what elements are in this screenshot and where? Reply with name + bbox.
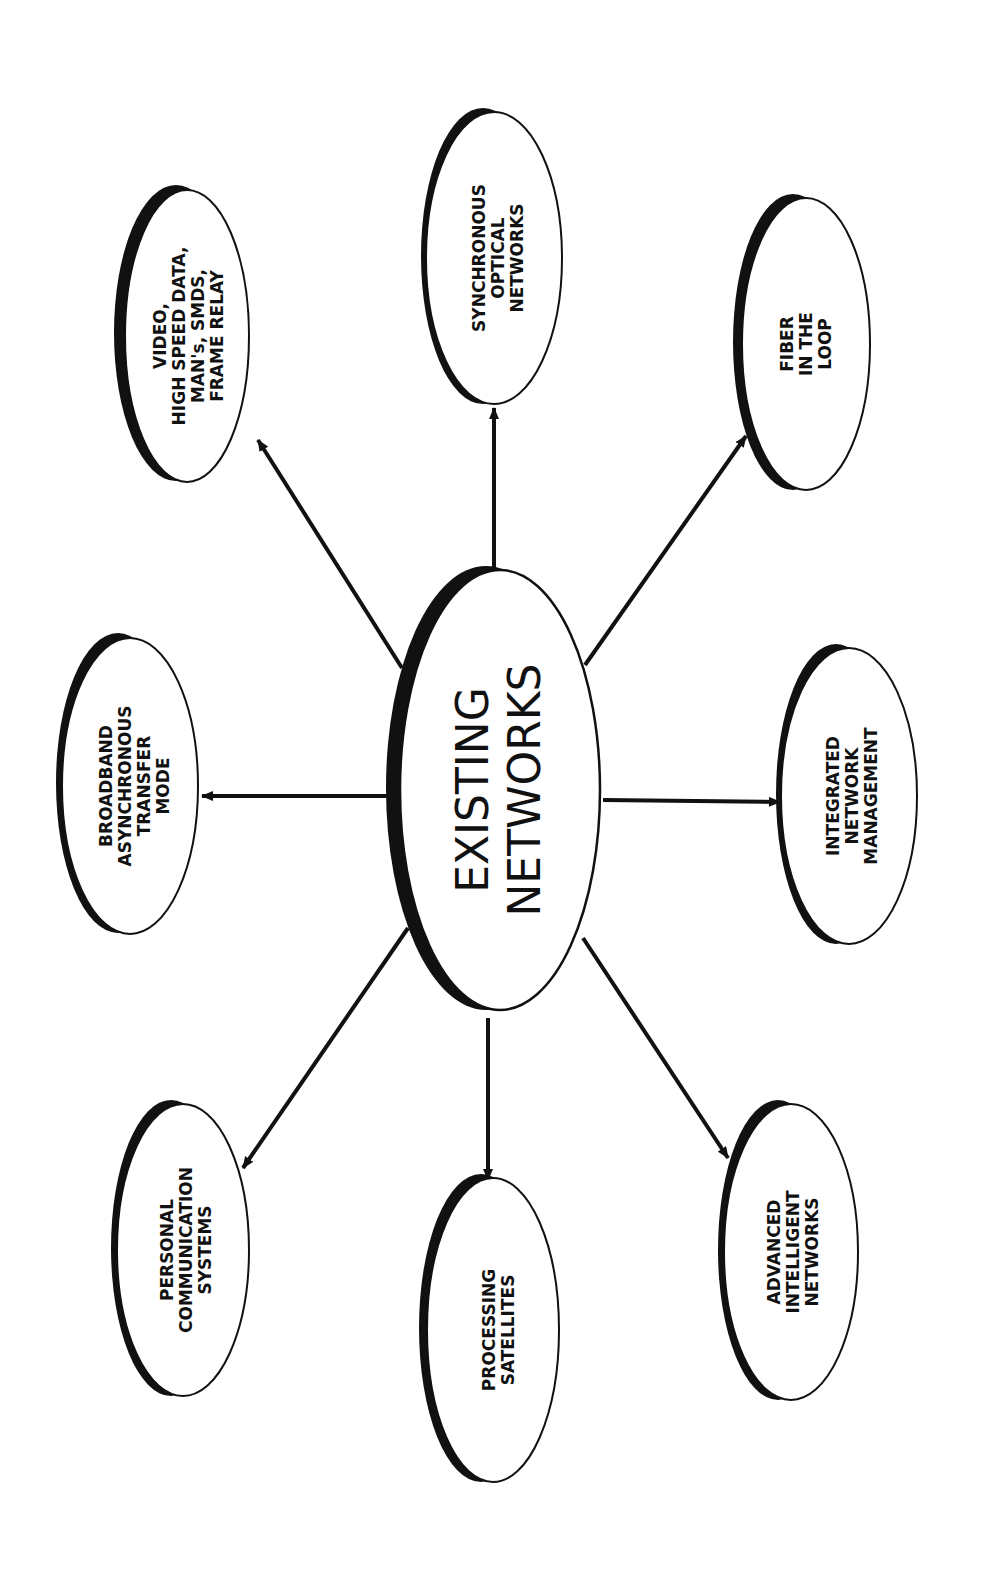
node-label-line-2: COMMUNICATION	[176, 1167, 196, 1333]
node-label-line-3: TRANSFER	[134, 736, 154, 837]
node-label-line-1: INTEGRATED	[823, 736, 843, 856]
network-diagram: EXISTING NETWORKS VIDEO, HIGH SPEED DATA…	[0, 0, 982, 1581]
center-label-line-1: EXISTING	[447, 687, 498, 893]
node-label-line-4: FRAME RELAY	[207, 269, 227, 401]
node-broadband-atm: BROADBAND ASYNCHRONOUS TRANSFER MODE	[56, 633, 198, 934]
node-label-line-2: ASYNCHRONOUS	[115, 706, 135, 867]
node-video-high-speed-data: VIDEO, HIGH SPEED DATA, MAN's, SMDS, FRA…	[114, 185, 249, 482]
node-integrated-network-management: INTEGRATED NETWORK MANAGEMENT	[776, 644, 917, 944]
node-label-line-1: PERSONAL	[157, 1199, 177, 1301]
node-processing-satellites: PROCESSING SATELLITES	[419, 1174, 559, 1482]
node-synchronous-optical-networks: SYNCHRONOUS OPTICAL NETWORKS	[421, 108, 562, 404]
node-label-line-2: HIGH SPEED DATA,	[169, 247, 189, 426]
node-label-line-1: BROADBAND	[96, 725, 116, 847]
edge-to-advanced-intelligent-networks	[583, 938, 728, 1158]
node-label-line-1: PROCESSING	[479, 1269, 499, 1391]
node-label-line-1: FIBER	[777, 316, 797, 372]
node-label-line-3: NETWORKS	[802, 1197, 822, 1306]
node-label-line-2: OPTICAL	[488, 217, 508, 298]
node-fiber-in-the-loop: FIBER IN THE LOOP	[733, 194, 870, 490]
center-label-line-2: NETWORKS	[499, 663, 550, 916]
node-advanced-intelligent-networks: ADVANCED INTELLIGENT NETWORKS	[718, 1100, 858, 1400]
node-label-line-1: ADVANCED	[764, 1200, 784, 1305]
node-label-line-1: SYNCHRONOUS	[469, 184, 489, 332]
node-label-line-2: SATELLITES	[498, 1275, 518, 1386]
node-label-line-3: LOOP	[815, 318, 835, 370]
node-label-line-3: SYSTEMS	[195, 1205, 215, 1294]
node-label-line-3: MAN's, SMDS,	[188, 269, 208, 403]
node-label-line-1: VIDEO,	[150, 303, 170, 369]
node-label-line-3: NETWORKS	[507, 203, 527, 312]
edge-to-fiber-in-the-loop	[585, 436, 746, 665]
edge-to-video-high-speed-data	[258, 440, 402, 668]
edge-to-personal-communication-systems	[243, 928, 408, 1168]
node-label-line-3: MANAGEMENT	[861, 727, 881, 865]
edge-to-integrated-network-management	[603, 800, 780, 802]
center-node-existing-networks: EXISTING NETWORKS	[386, 566, 600, 1010]
node-label-line-2: IN THE	[796, 312, 816, 376]
node-label-line-2: NETWORK	[842, 747, 862, 845]
node-label-line-2: INTELLIGENT	[783, 1190, 803, 1314]
node-label-line-4: MODE	[153, 757, 173, 814]
node-personal-communication-systems: PERSONAL COMMUNICATION SYSTEMS	[111, 1100, 249, 1396]
